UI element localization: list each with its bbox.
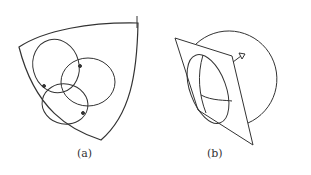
caption-b: (b) [207,147,223,160]
subfigure-b [175,31,277,145]
arrow-shaft [233,56,241,62]
intersection-point [82,112,85,115]
intersection-point [43,85,46,88]
arrow-head-icon [239,53,245,59]
intersection-point [79,65,82,68]
circle-2 [61,58,115,106]
surface-patch-outline [19,23,138,140]
circle-3 [39,80,91,127]
caption-a: (a) [77,147,92,160]
figure-canvas [0,0,311,175]
subfigure-a [19,16,138,140]
